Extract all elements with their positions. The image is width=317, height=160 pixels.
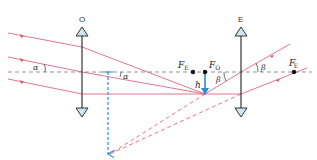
eyepiece-lens [235,27,247,117]
angle-alpha-arc-left [44,64,45,72]
angle-alpha-arc-right [120,72,121,77]
focal-point-FE: FE [177,60,189,71]
eyepiece-label: E [238,15,243,24]
angle-alpha-right: α [123,72,129,81]
angle-alpha-left: α [33,63,39,72]
focal-point-FE-prime: F′E [288,57,298,69]
angle-beta-arc-right [256,63,258,72]
telescope-ray-diagram: h O E FE FO F′E α α β β [0,0,317,160]
angle-beta-arc-left [224,72,226,81]
intermediate-image-arrow [201,72,209,95]
angle-beta-left: β [215,75,221,84]
objective-label: O [79,15,85,24]
angle-beta-right: β [260,63,266,72]
image-label-h: h [195,80,201,90]
virtual-rays [110,94,241,154]
focal-point-FO: FO [208,60,220,71]
